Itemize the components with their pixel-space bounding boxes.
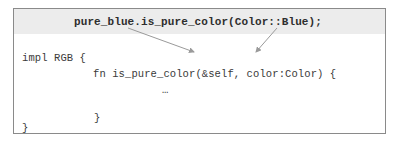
fn-close-brace: } xyxy=(94,112,100,124)
code-diagram-frame: pure_blue.is_pure_color(Color::Blue); im… xyxy=(13,8,386,134)
impl-block-line: impl RGB { xyxy=(22,52,86,64)
fn-signature-line: fn is_pure_color(&self, color:Color) { xyxy=(93,68,336,80)
method-call-line: pure_blue.is_pure_color(Color::Blue); xyxy=(74,16,322,28)
fn-body-ellipsis: … xyxy=(162,84,168,96)
impl-close-brace: } xyxy=(22,122,28,134)
